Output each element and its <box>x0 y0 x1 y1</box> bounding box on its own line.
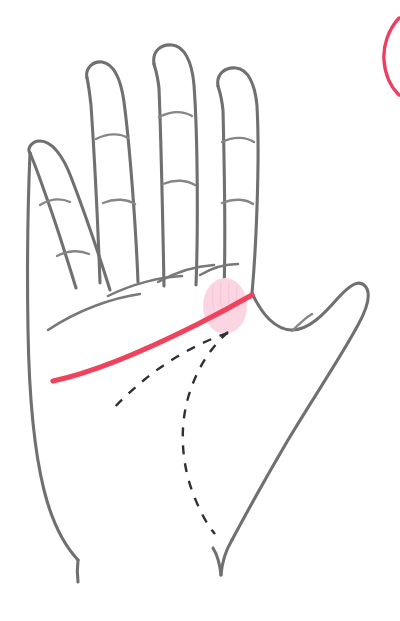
palmistry-illustration <box>0 0 400 621</box>
wrist-left-edge <box>77 560 78 582</box>
highlight-ellipse <box>203 278 247 334</box>
palmistry-diagram <box>0 0 400 621</box>
heart-line-origin-highlight <box>203 278 247 334</box>
canvas-background <box>0 0 400 621</box>
